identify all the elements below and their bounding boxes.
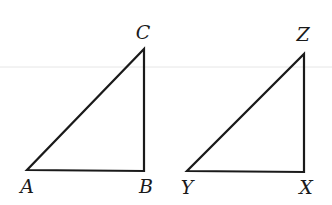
triangle-yxz: Y X Z [181, 23, 315, 198]
triangle-abc: A B C [18, 21, 153, 197]
vertex-label-a: A [18, 175, 34, 197]
triangle-diagram: A B C Y X Z [0, 0, 332, 205]
vertex-label-z: Z [295, 23, 310, 45]
vertex-label-y: Y [181, 176, 196, 198]
triangle-yxz-shape [187, 54, 304, 172]
vertex-label-b: B [138, 175, 153, 197]
vertex-label-c: C [136, 21, 151, 43]
vertex-label-x: X [297, 176, 314, 198]
